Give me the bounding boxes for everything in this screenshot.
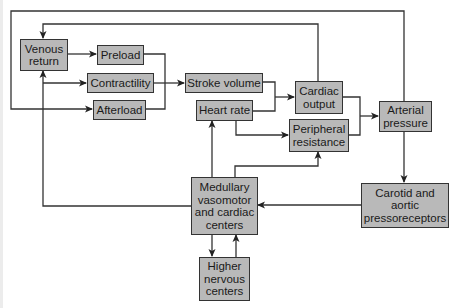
node-contractility: Contractility — [87, 73, 154, 93]
node-afterload: Afterload — [93, 100, 146, 120]
node-preload: Preload — [97, 45, 144, 65]
node-heart-rate: Heart rate — [196, 100, 253, 121]
node-medullary-centers: Medullary vasomotor and cardiac centers — [191, 177, 258, 235]
node-stroke-volume: Stroke volume — [185, 73, 263, 93]
node-venous-return: Venous return — [20, 39, 68, 71]
node-higher-nervous-centers: Higher nervous centers — [199, 257, 250, 301]
node-pressoreceptors: Carotid and aortic pressoreceptors — [361, 183, 449, 228]
node-cardiac-output: Cardiac output — [295, 81, 343, 114]
node-peripheral-resistance: Peripheral resistance — [289, 119, 349, 152]
node-arterial-pressure: Arterial pressure — [379, 101, 432, 132]
